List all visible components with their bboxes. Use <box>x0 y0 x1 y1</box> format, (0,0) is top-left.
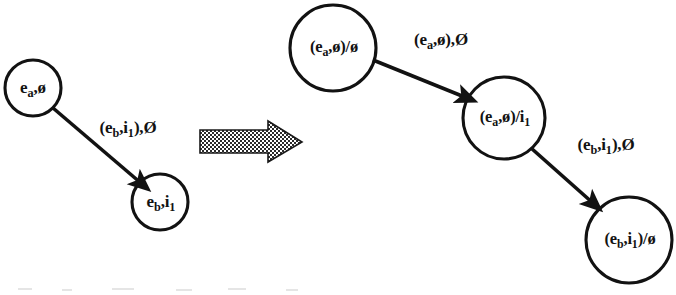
transform-arrow <box>200 121 302 162</box>
edge-label-result-1: (ea,ø),Ø <box>414 31 468 51</box>
edge-line-result-2 <box>531 148 594 204</box>
node-label-result-b: (ea,ø)/i1 <box>480 109 530 128</box>
edge-label-source: (eb,i1),Ø <box>100 119 157 139</box>
node-label-source-b: eb,i1 <box>147 193 176 213</box>
node-label-result-a: (ea,ø)/ø <box>310 39 358 58</box>
node-label-result-c: (eb,i1)/ø <box>604 231 655 250</box>
figure-root: ea,ø eb,i1 (eb,i1),Ø (ea,ø)/ø (ea,ø)/i1 … <box>0 0 676 295</box>
edge-label-result-2: (eb,i1),Ø <box>578 136 635 156</box>
edge-line-result-1 <box>373 60 467 98</box>
node-label-source-a: ea,ø <box>20 79 46 99</box>
